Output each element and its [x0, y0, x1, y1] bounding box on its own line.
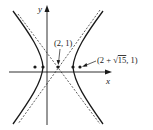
- y-axis-arrow-icon: [45, 5, 50, 12]
- focus-label-suffix: , 1): [126, 55, 138, 65]
- right-focus-point: [78, 65, 81, 68]
- focus-pointer-arrowhead-icon: [82, 63, 87, 67]
- x-axis-label: x: [105, 76, 110, 86]
- center-label: (2, 1): [54, 38, 73, 48]
- focus-label: (2 + √15, 1): [97, 55, 138, 65]
- hyperbola-diagram: x y (2, 1) (2 + √15, 1): [0, 0, 153, 130]
- asymptote-1: [18, 14, 100, 124]
- right-vertex-point: [71, 65, 74, 68]
- focus-label-prefix: (2 +: [97, 55, 113, 65]
- center-point: [56, 65, 59, 68]
- hyperbola-left-branch: [13, 11, 43, 124]
- y-axis-label: y: [37, 4, 42, 14]
- center-pointer-arrowhead-icon: [57, 60, 61, 65]
- x-axis-arrow-icon: [105, 70, 112, 75]
- left-vertex-point: [41, 65, 44, 68]
- left-focus-point: [33, 65, 36, 68]
- hyperbola-right-branch: [73, 11, 103, 124]
- focus-label-radicand: 15: [118, 55, 127, 65]
